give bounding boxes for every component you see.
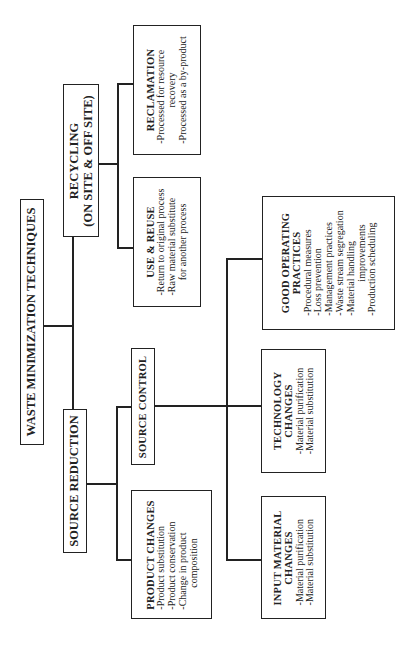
list-item: -Procedural measures [302,210,313,315]
list-item: -Loss prevention [313,210,324,315]
source-reduction-box: SOURCE REDUCTION [63,409,87,553]
connector-recycling-stem [98,163,118,165]
use-reuse-box: USE & REUSE -Return to original process … [133,177,201,307]
source-reduction-label: SOURCE REDUCTION [67,415,81,547]
list-item: -Processed as a by-product [178,36,189,143]
connector-to-good-operating [226,258,262,260]
list-item: improvements [356,210,367,315]
connector-to-source-control [116,406,132,408]
recycling-box: RECYCLING (ON SITE & OFF SITE) [63,84,99,237]
technology-subtitle: CHANGES [283,368,294,454]
list-item: -Product substitution [156,500,167,609]
recycling-label: RECYCLING [68,95,82,227]
source-control-box: SOURCE CONTROL [131,348,155,465]
connector-main-spine [72,236,74,410]
connector-recycling-spine [117,83,119,248]
product-changes-title: PRODUCT CHANGES [144,500,155,609]
connector-to-input-material [226,559,262,561]
technology-title: TECHNOLOGY [271,368,282,454]
connector-source-reduction-stem [86,483,117,485]
good-operating-subtitle: PRACTICES [291,210,302,315]
list-item: -Waste stream segregation [334,210,345,315]
connector-to-reclamation [117,83,134,85]
connector-source-reduction-spine [116,406,118,560]
list-item: -Product conservation [166,500,177,609]
connector-to-technology [226,405,262,407]
input-material-subtitle: CHANGES [283,510,294,605]
input-material-changes-box: INPUT MATERIAL CHANGES -Material purific… [261,496,326,619]
connector-to-product-changes [116,559,132,561]
recycling-sublabel: (ON SITE & OFF SITE) [81,95,95,227]
list-item: for another process [178,189,189,296]
input-material-title: INPUT MATERIAL [271,510,282,605]
connector-title-to-spine [43,325,73,327]
connector-source-control-spine [226,258,228,560]
list-item: composition [188,500,199,609]
connector-source-control-stem [154,405,227,407]
source-control-label: SOURCE CONTROL [137,355,148,457]
reclamation-box: RECLAMATION -Processed for resource reco… [133,25,201,155]
list-item: -Material substitution [305,510,316,605]
list-item: -Change in product [177,500,188,609]
list-item: -Material substitution [305,368,316,454]
title-box: WASTE MINIMIZATION TECHNIQUES [20,199,44,445]
good-operating-title: GOOD OPERATING [279,210,290,315]
technology-changes-box: TECHNOLOGY CHANGES -Material purificatio… [261,349,326,473]
diagram-title: WASTE MINIMIZATION TECHNIQUES [24,208,38,437]
list-item: -Material handling [345,210,356,315]
good-operating-practices-box: GOOD OPERATING PRACTICES -Procedural mea… [262,196,395,330]
product-changes-box: PRODUCT CHANGES -Product substitution -P… [131,490,212,619]
list-item: -Material purification [294,368,305,454]
list-item: -Production scheduling [367,210,378,315]
list-item: -Management practices [324,210,335,315]
connector-to-use-reuse [117,247,134,249]
list-item: -Material purification [294,510,305,605]
